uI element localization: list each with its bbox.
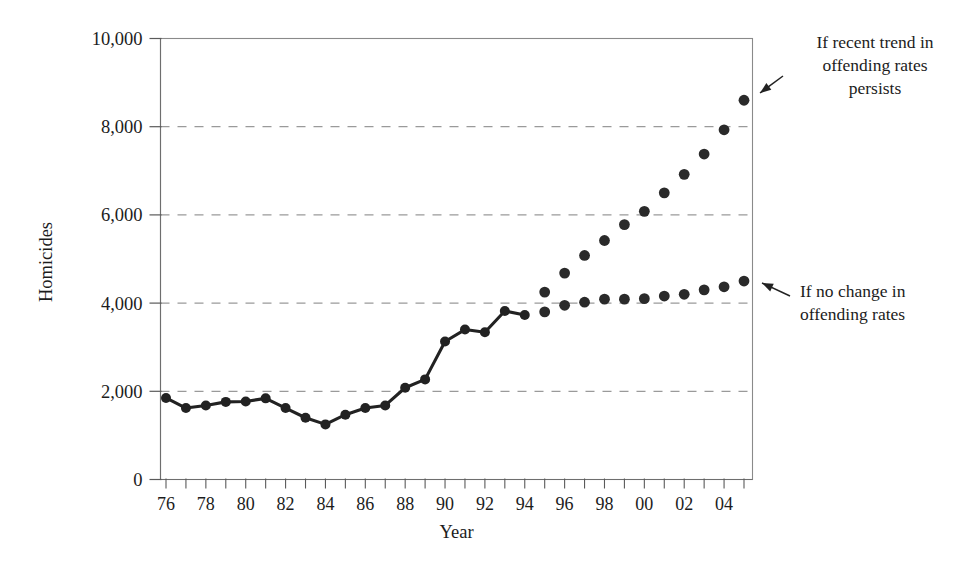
data-point (500, 306, 510, 316)
data-point (719, 281, 730, 292)
data-point (579, 297, 590, 308)
data-point (639, 293, 650, 304)
data-point (619, 219, 630, 230)
plot-frame (161, 39, 753, 480)
x-tick-label-1980: 80 (237, 494, 255, 514)
series-trend-persists (539, 95, 749, 298)
data-point (559, 268, 570, 279)
x-tick-label-1996: 96 (556, 494, 574, 514)
x-tick-label-2000: 00 (635, 494, 653, 514)
data-point (281, 403, 291, 413)
y-tick-label-2000: 2,000 (101, 382, 143, 402)
annotations-group: If recent trend inoffending ratespersist… (760, 32, 934, 324)
data-point (659, 291, 670, 302)
data-point (659, 187, 670, 198)
x-axis: 767880828486889092949698000204 (157, 479, 744, 514)
data-point (679, 169, 690, 180)
data-point (360, 403, 370, 413)
annotation-line: If no change in (800, 281, 906, 301)
annotation-no-change: If no change inoffending rates (762, 281, 906, 324)
x-tick-label-1994: 94 (516, 494, 534, 514)
series-line-historical (166, 311, 525, 424)
annotation-line: persists (849, 78, 902, 98)
x-tick-label-1978: 78 (197, 494, 215, 514)
annotation-line: If recent trend in (816, 32, 933, 52)
x-tick-label-2002: 02 (675, 494, 693, 514)
data-point (619, 294, 630, 305)
x-tick-label-1986: 86 (356, 494, 374, 514)
data-point (181, 403, 191, 413)
data-point (520, 310, 530, 320)
data-point (699, 284, 710, 295)
y-axis: 02,0004,0006,0008,00010,000 (92, 29, 162, 490)
x-tick-label-1976: 76 (157, 494, 175, 514)
annotation-line: offending rates (800, 304, 905, 324)
data-point (599, 294, 610, 305)
gridlines-group (161, 127, 753, 392)
data-point (161, 393, 171, 403)
y-axis-title: Homicides (36, 222, 56, 302)
data-point (639, 206, 650, 217)
x-tick-label-1984: 84 (316, 494, 334, 514)
y-tick-label-8000: 8,000 (101, 117, 143, 137)
x-tick-label-1988: 88 (396, 494, 414, 514)
x-axis-title: Year (439, 522, 473, 542)
data-point (739, 95, 750, 106)
data-point (679, 289, 690, 300)
y-tick-label-0: 0 (133, 470, 142, 490)
data-point (579, 250, 590, 261)
y-tick-label-10000: 10,000 (92, 29, 143, 49)
x-tick-label-1998: 98 (595, 494, 613, 514)
homicides-projection-chart: 02,0004,0006,0008,00010,000 767880828486… (0, 0, 960, 572)
data-point (420, 374, 430, 384)
y-tick-label-4000: 4,000 (101, 294, 143, 314)
data-point (261, 393, 271, 403)
data-point (539, 287, 550, 298)
data-point (539, 307, 550, 318)
data-point (320, 419, 330, 429)
annotation-arrow-head (760, 83, 771, 93)
data-point (380, 400, 390, 410)
plot-area-border (161, 39, 753, 480)
data-point (739, 276, 750, 287)
data-point (201, 400, 211, 410)
data-point (400, 383, 410, 393)
x-tick-label-2004: 04 (715, 494, 733, 514)
x-tick-label-1992: 92 (476, 494, 494, 514)
data-point (241, 396, 251, 406)
annotation-arrow-head (762, 283, 774, 291)
annotation-line: offending rates (822, 55, 927, 75)
annotation-trend-persists: If recent trend inoffending ratespersist… (760, 32, 934, 98)
data-point (699, 149, 710, 160)
data-point (221, 397, 231, 407)
data-point (440, 336, 450, 346)
data-point (719, 124, 730, 135)
series-historical-homicides (161, 306, 530, 429)
data-point (599, 235, 610, 246)
data-point (301, 413, 311, 423)
series-no-change (539, 276, 749, 318)
data-point (480, 327, 490, 337)
data-point (559, 300, 570, 311)
x-tick-label-1990: 90 (436, 494, 454, 514)
chart-figure: 02,0004,0006,0008,00010,000 767880828486… (0, 0, 960, 572)
data-point (340, 410, 350, 420)
x-tick-label-1982: 82 (277, 494, 295, 514)
y-tick-label-6000: 6,000 (101, 205, 143, 225)
data-point (460, 325, 470, 335)
